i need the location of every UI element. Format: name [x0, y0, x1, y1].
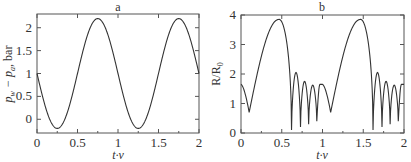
panel-a-y-ticks: 00.511.52 [16, 20, 199, 127]
x-tick-label: 1.5 [355, 135, 371, 150]
x-tick-label: 0 [34, 135, 41, 150]
x-tick-label: 2 [196, 135, 203, 150]
y-tick-label: 0.5 [16, 88, 32, 103]
y-tick-label: 4 [230, 7, 237, 22]
panel-b-line [241, 19, 404, 130]
panel-b-title: b [319, 0, 325, 14]
x-tick-label: 0.5 [274, 135, 290, 150]
x-tick-label: 0 [238, 135, 245, 150]
x-tick-label: 0.5 [69, 135, 85, 150]
panel-b: b 00.511.52 01234 t·v R/R0 [209, 0, 407, 162]
y-tick-label: 1 [26, 66, 33, 81]
y-tick-label: 0 [230, 125, 237, 140]
panel-b-frame [241, 15, 404, 133]
panel-a-line [37, 19, 199, 129]
panel-a: a 00.511.52 00.511.52 t·v pw − pa, bar [1, 0, 202, 162]
x-tick-label: 2 [401, 135, 408, 150]
y-tick-label: 0 [26, 111, 33, 126]
panel-b-y-label: R/R0 [209, 62, 225, 85]
y-tick-label: 3 [230, 37, 237, 52]
chart-figure: a 00.511.52 00.511.52 t·v pw − pa, bar b… [0, 0, 411, 162]
panel-a-x-ticks: 00.511.52 [34, 14, 203, 150]
y-tick-label: 2 [26, 20, 33, 35]
panel-a-x-label: t·v [112, 148, 124, 162]
y-tick-label: 2 [230, 66, 237, 81]
panel-b-x-label: t·v [316, 148, 328, 162]
y-tick-label: 1.5 [16, 43, 32, 58]
panel-a-y-label: pw − pa, bar [1, 46, 17, 104]
y-tick-label: 1 [230, 96, 237, 111]
panel-b-x-ticks: 00.511.52 [238, 15, 408, 150]
panel-a-title: a [115, 0, 121, 14]
x-tick-label: 1.5 [150, 135, 166, 150]
